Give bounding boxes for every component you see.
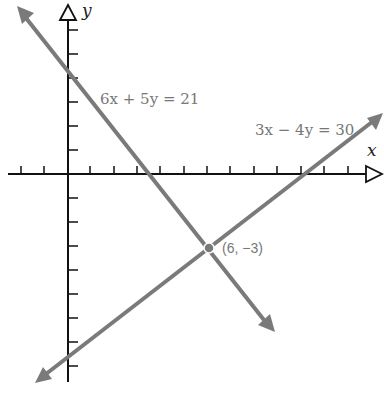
equation-label-2: 3x − 4y = 30 [255, 121, 354, 139]
linear-system-graph: y x 6x + 5y = 21 3x − 4y = 30 (6, −3) [0, 0, 384, 404]
x-axis-ticks [21, 166, 348, 174]
intersection-point [204, 243, 214, 253]
x-axis-label: x [367, 140, 377, 160]
equation-label-1: 6x + 5y = 21 [100, 90, 199, 108]
intersection-label: (6, −3) [222, 240, 263, 256]
arrowhead-icon [17, 6, 34, 24]
y-axis-label: y [82, 0, 92, 20]
graph-canvas [0, 0, 384, 404]
line-6x-plus-5y-eq-21 [17, 6, 275, 332]
x-axis [8, 166, 382, 182]
